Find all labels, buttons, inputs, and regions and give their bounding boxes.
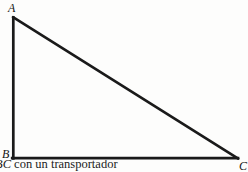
triangle-figure [0, 0, 248, 172]
vertex-label-a: A [8, 2, 15, 14]
caption-text: BC con un transportador [0, 160, 118, 171]
caption-segment-name: BC [0, 160, 11, 171]
caption-segment-rest: con un transportador [11, 160, 118, 171]
caption-clip: BC con un transportador [0, 160, 248, 172]
diagram-canvas: A B C BC con un transportador [0, 0, 248, 172]
edge-ca [13, 17, 238, 158]
vertex-label-b: B [2, 148, 9, 160]
